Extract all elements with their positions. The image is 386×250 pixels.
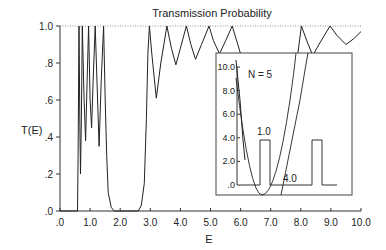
inset-y-tick-label: .0 bbox=[227, 180, 235, 190]
y-tick-label: .4 bbox=[45, 132, 54, 143]
x-axis: .01.02.03.04.05.06.07.08.09.010.0 bbox=[56, 208, 371, 228]
x-axis-label: E bbox=[205, 233, 212, 245]
x-tick-label: 2.0 bbox=[113, 217, 127, 228]
barrier-width-label: 1.0 bbox=[257, 126, 271, 137]
y-axis-label: T(E) bbox=[21, 124, 42, 136]
y-tick-label: .8 bbox=[45, 58, 54, 69]
x-tick-label: 7.0 bbox=[264, 217, 278, 228]
inset-potential-plot: .02.04.06.08.010.0 N = 5 1.0 4.0 bbox=[216, 53, 352, 195]
y-tick-label: .2 bbox=[45, 169, 54, 180]
y-tick-label: .6 bbox=[45, 95, 54, 106]
y-axis: .0.2.4.6.81.0 bbox=[39, 21, 60, 217]
x-tick-label: 10.0 bbox=[351, 217, 371, 228]
x-tick-label: 5.0 bbox=[204, 217, 218, 228]
x-tick-label: 4.0 bbox=[173, 217, 187, 228]
inset-n-label: N = 5 bbox=[248, 69, 273, 80]
inset-y-tick-label: 6.0 bbox=[222, 109, 235, 119]
y-tick-label: .0 bbox=[45, 206, 54, 217]
x-tick-label: .0 bbox=[56, 217, 65, 228]
x-tick-label: 3.0 bbox=[143, 217, 157, 228]
chart-canvas: Transmission Probability .0.2.4.6.81.0 .… bbox=[0, 0, 386, 250]
y-tick-label: 1.0 bbox=[39, 21, 53, 32]
x-tick-label: 9.0 bbox=[324, 217, 338, 228]
x-tick-label: 1.0 bbox=[83, 217, 97, 228]
inset-y-tick-label: 4.0 bbox=[222, 133, 235, 143]
x-tick-label: 8.0 bbox=[294, 217, 308, 228]
barrier-separation-label: 4.0 bbox=[283, 173, 297, 184]
chart-title: Transmission Probability bbox=[152, 7, 272, 19]
inset-y-tick-label: 10.0 bbox=[217, 62, 235, 72]
x-tick-label: 6.0 bbox=[234, 217, 248, 228]
inset-y-tick-label: 2.0 bbox=[222, 156, 235, 166]
inset-y-tick-label: 8.0 bbox=[222, 86, 235, 96]
